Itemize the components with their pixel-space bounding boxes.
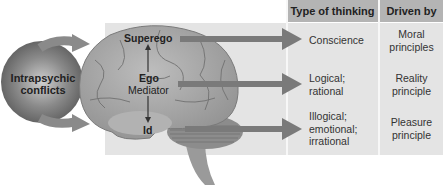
cell-text: principle <box>380 85 443 98</box>
cell-type-id: Illogical; emotional; irrational <box>309 110 357 148</box>
cell-driven-ego: Reality principle <box>380 72 443 97</box>
cell-text: principles <box>380 41 443 54</box>
cell-text: Conscience <box>309 34 364 47</box>
cell-text: Pleasure <box>380 116 443 129</box>
cell-text: Illogical; <box>309 110 357 123</box>
cell-text: rational <box>309 85 345 98</box>
cell-driven-id: Pleasure principle <box>380 116 443 141</box>
cell-text: emotional; <box>309 123 357 136</box>
cell-text: Logical; <box>309 72 345 85</box>
cell-type-superego: Conscience <box>309 34 364 47</box>
cell-type-ego: Logical; rational <box>309 72 345 97</box>
sphere-label: Intrapsychic conflicts <box>6 72 80 96</box>
sphere-label-line1: Intrapsychic <box>6 72 80 84</box>
label-mediator: Mediator <box>128 84 169 96</box>
cell-text: irrational <box>309 135 357 148</box>
label-ego: Ego <box>139 72 159 84</box>
label-superego: Superego <box>124 32 172 44</box>
cell-text: Moral <box>380 28 443 41</box>
sphere-label-line2: conflicts <box>6 84 80 96</box>
label-id: Id <box>143 124 152 136</box>
cell-driven-superego: Moral principles <box>380 28 443 53</box>
cell-text: principle <box>380 129 443 142</box>
curved-arrow-bottom <box>40 118 75 123</box>
cell-text: Reality <box>380 72 443 85</box>
